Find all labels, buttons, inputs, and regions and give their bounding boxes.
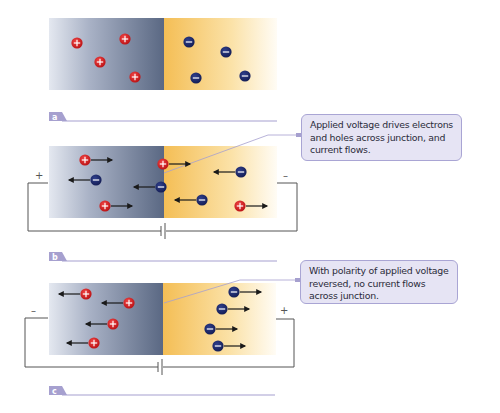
- callout-reverse-bias: With polarity of applied voltage reverse…: [300, 260, 458, 304]
- panel-tag-label: b: [52, 253, 58, 262]
- battery-icon: [161, 223, 165, 239]
- hole-carrier: [129, 71, 140, 82]
- left-terminal-sign: +: [35, 170, 43, 181]
- panel-tag-label: c: [52, 387, 57, 396]
- electron-carrier: [190, 72, 201, 83]
- panel-tag: c: [49, 386, 275, 396]
- panel-tag-label: a: [52, 113, 57, 122]
- electron-carrier: [239, 70, 250, 81]
- hole-carrier: [71, 37, 82, 48]
- panel-tag: a: [49, 112, 277, 122]
- n-type-region: [164, 18, 277, 90]
- panel-b: + – b: [28, 133, 301, 262]
- right-terminal-sign: –: [283, 170, 288, 181]
- hole-carrier: [119, 33, 130, 44]
- electron-carrier: [183, 36, 194, 47]
- callout-forward-bias: Applied voltage drives electrons and hol…: [301, 114, 462, 161]
- battery-icon: [158, 359, 162, 375]
- pn-junction-diagram: a + – b: [0, 0, 500, 413]
- panel-c: – + c: [25, 278, 300, 396]
- right-terminal-sign: +: [280, 305, 288, 316]
- panel-tag: b: [49, 252, 277, 262]
- left-terminal-sign: –: [31, 305, 36, 316]
- p-type-region: [49, 18, 164, 90]
- hole-carrier: [94, 56, 105, 67]
- panel-a: a: [49, 18, 277, 122]
- electron-carrier: [220, 46, 231, 57]
- n-type-region: [164, 146, 277, 218]
